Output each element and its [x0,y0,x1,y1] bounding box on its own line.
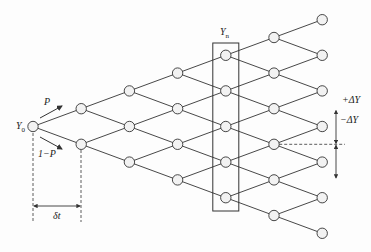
tree-node [221,50,231,60]
tree-node [317,228,327,238]
tree-node [124,157,134,167]
tree-node [269,139,279,149]
tree-node [172,139,182,149]
tree-node [221,193,231,203]
yn-label: Yn [220,27,229,40]
tree-edge [81,144,129,162]
tree-node [269,68,279,78]
y0-label: Y0 [16,121,25,134]
tree-node [172,175,182,185]
tree-node [317,193,327,203]
tree-edge [274,162,322,180]
tree-node [317,15,327,25]
tree-edge [178,55,226,73]
tree-node [221,86,231,96]
tree-edge [129,73,177,91]
tree-edge [226,180,274,198]
tree-node [221,121,231,131]
tree-edge [129,91,177,109]
tree-node [317,50,327,60]
tree-node [317,86,327,96]
tree-edge [81,127,129,145]
up-arrow-icon [40,106,62,118]
tree-edge [274,73,322,91]
tree-node [221,157,231,167]
tree-edge [178,73,226,91]
tree-edge [178,144,226,162]
tree-edge [226,73,274,91]
tree-edge [178,162,226,180]
time-step-label: δt [53,211,60,221]
tree-node [124,86,134,96]
tree-edge [226,38,274,56]
tree-edge [178,91,226,109]
tree-node [269,210,279,220]
tree-edge [129,144,177,162]
tree-edge [81,91,129,109]
tree-edge [274,127,322,145]
tree-edge [178,180,226,198]
tree-node [28,121,38,131]
tree-edge [226,109,274,127]
tree-node [124,121,134,131]
tree-edge [274,20,322,38]
tree-edge [274,216,322,234]
up-probability-label: P [44,97,50,107]
tree-edge [178,127,226,145]
tree-edge [226,127,274,145]
tree-edge [226,144,274,162]
tree-edge [178,109,226,127]
tree-node [317,121,327,131]
binomial-tree-diagram: Y0 Yn P 1−P δt +ΔY −ΔY [0,0,371,252]
tree-node [76,104,86,114]
tree-node [269,175,279,185]
up-move-label: +ΔY [342,95,360,105]
tree-edge [226,162,274,180]
tree-node [172,68,182,78]
tree-edge [274,55,322,73]
tree-edge [274,91,322,109]
tree-edge [274,38,322,56]
tree-edge [129,127,177,145]
tree-edge [226,198,274,216]
tree-edge [226,55,274,73]
tree-edge [129,162,177,180]
tree-node [172,104,182,114]
tree-edge [274,144,322,162]
tree-node [76,139,86,149]
tree-edge [226,91,274,109]
tree-edge [274,109,322,127]
tree-node [269,104,279,114]
tree-edge [33,127,81,145]
tree-edge [274,198,322,216]
tree-edge [81,109,129,127]
tree-edge [129,109,177,127]
tree-node [317,157,327,167]
tree-edge [274,180,322,198]
down-move-label: −ΔY [340,115,358,125]
down-probability-label: 1−P [38,149,56,159]
tree-node [269,32,279,42]
